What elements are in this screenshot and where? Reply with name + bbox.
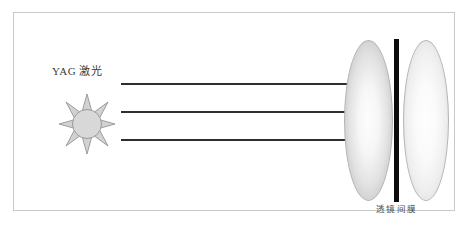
sun-core-circle: [73, 110, 102, 139]
lens-right: [403, 40, 449, 201]
diagram-canvas: YAG 激光: [0, 0, 467, 229]
membrane-label: 透镜间膜: [344, 202, 449, 214]
membrane-bar: [394, 39, 399, 202]
sun-burst-icon: [59, 94, 115, 154]
beam-shaft: [121, 83, 372, 85]
beam-shaft: [121, 139, 372, 141]
sun-burst-icon-svg: [59, 94, 115, 154]
laser-source-label: YAG 激光: [52, 62, 102, 78]
figure-border: YAG 激光: [13, 12, 455, 211]
lens-left: [344, 40, 393, 201]
beam-shaft: [121, 111, 372, 113]
